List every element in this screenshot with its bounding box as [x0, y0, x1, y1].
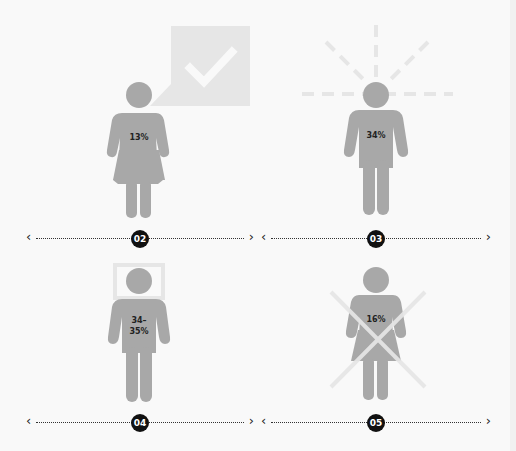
- scale-05: ‹ › 05: [263, 416, 489, 430]
- number-badge: 03: [367, 230, 385, 248]
- scale-03: ‹ › 03: [263, 232, 489, 246]
- scale-02: ‹ › 02: [28, 232, 252, 246]
- percent-label: 34%: [361, 130, 391, 141]
- number-badge: 05: [367, 414, 385, 432]
- scale-04: ‹ › 04: [28, 416, 252, 430]
- female-with-check-bubble-icon: [0, 0, 258, 225]
- right-arrow-icon: ›: [486, 230, 491, 244]
- number-badge: 02: [131, 230, 149, 248]
- male-with-radiating-dashes-icon: [258, 0, 516, 225]
- figure-panel-03: 34%: [258, 0, 516, 225]
- percent-label: 16%: [361, 314, 391, 325]
- page-edge: [510, 0, 516, 451]
- figure-panel-02: 13%: [0, 0, 258, 225]
- left-arrow-icon: ‹: [26, 414, 31, 428]
- right-arrow-icon: ›: [249, 230, 254, 244]
- left-arrow-icon: ‹: [26, 230, 31, 244]
- number-badge: 04: [131, 414, 149, 432]
- left-arrow-icon: ‹: [261, 230, 266, 244]
- left-arrow-icon: ‹: [261, 414, 266, 428]
- right-arrow-icon: ›: [486, 414, 491, 428]
- percent-label: 13%: [124, 132, 154, 143]
- percent-label-line1: 34–: [124, 315, 154, 326]
- percent-label-line2: 35%: [124, 326, 154, 337]
- right-arrow-icon: ›: [249, 414, 254, 428]
